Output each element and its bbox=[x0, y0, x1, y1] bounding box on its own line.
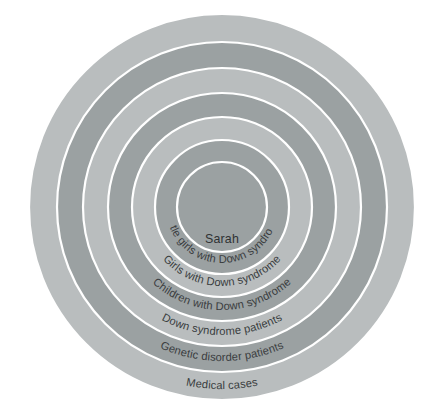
center-label-sarah: Sarah bbox=[205, 232, 239, 246]
nested-circles-canvas: Medical cases Genetic disorder patients … bbox=[0, 0, 444, 415]
nested-circles-diagram: Medical cases Genetic disorder patients … bbox=[0, 0, 444, 415]
rings-layer bbox=[29, 14, 415, 400]
